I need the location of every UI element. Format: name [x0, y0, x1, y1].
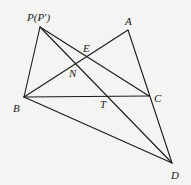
segment-pc: [40, 27, 149, 96]
point-label-e: E: [82, 42, 90, 54]
point-label-c: C: [154, 92, 162, 104]
point-label-d: D: [170, 169, 179, 181]
segment-pb: [24, 27, 40, 97]
segment-ab: [24, 30, 128, 97]
segment-pd: [40, 27, 172, 163]
point-label-t: T: [100, 98, 107, 110]
geometry-diagram: P(P′)ABCDENT: [0, 0, 191, 185]
segment-bc: [24, 96, 149, 97]
point-label-p: P(P′): [26, 11, 51, 24]
point-label-n: N: [68, 67, 77, 79]
segment-bd: [24, 97, 172, 163]
segments-group: [24, 27, 172, 163]
point-label-a: A: [124, 15, 132, 27]
point-label-b: B: [13, 102, 20, 114]
